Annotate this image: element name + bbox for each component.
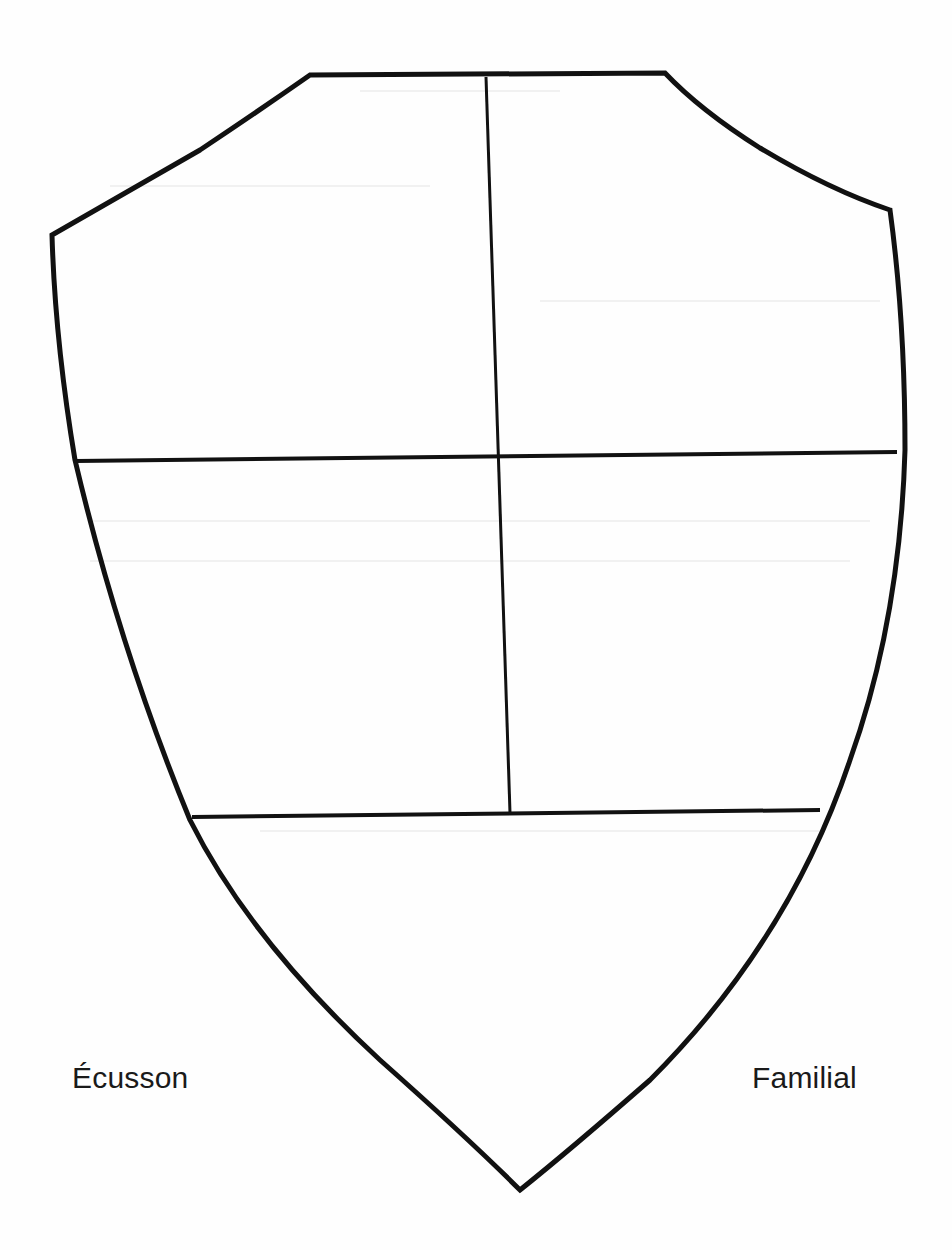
shield-label-left: Écusson bbox=[72, 1063, 188, 1093]
vertical-divider bbox=[486, 77, 510, 813]
lower-horizontal-divider bbox=[192, 810, 820, 817]
shield-outline bbox=[52, 73, 905, 1190]
page: Écusson Familial bbox=[0, 0, 952, 1250]
shield-label-right: Familial bbox=[752, 1063, 857, 1093]
upper-horizontal-divider bbox=[76, 452, 897, 461]
